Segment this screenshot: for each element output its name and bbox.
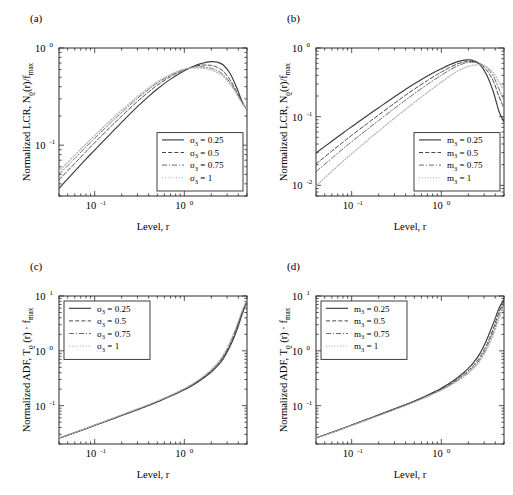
x-tick-label: 100 bbox=[175, 447, 194, 460]
y-tick-label: 10-1 bbox=[292, 110, 313, 123]
svg-text:-1: -1 bbox=[100, 447, 106, 455]
legend-label: m3 = 0.75 bbox=[354, 329, 390, 341]
svg-text:1: 1 bbox=[50, 289, 54, 297]
plot-c: (c)10-110010110010-1Level, rNormalized A… bbox=[0, 248, 256, 495]
svg-text:-1: -1 bbox=[357, 199, 363, 207]
svg-text:10: 10 bbox=[432, 448, 443, 459]
svg-text:10: 10 bbox=[35, 291, 46, 302]
svg-text:Normalized LCR, Nϱ(r)/fmax: Normalized LCR, Nϱ(r)/fmax bbox=[278, 62, 292, 181]
svg-text:0: 0 bbox=[50, 41, 54, 49]
legend-label: σ3 = 1 bbox=[190, 173, 212, 185]
panel-label: (a) bbox=[30, 12, 43, 25]
legend-label: m3 = 0.5 bbox=[447, 148, 479, 160]
svg-text:-1: -1 bbox=[50, 138, 56, 146]
svg-text:10: 10 bbox=[175, 448, 186, 459]
panel-c: (c)10-110010110010-1Level, rNormalized A… bbox=[0, 248, 256, 495]
svg-text:0: 0 bbox=[190, 199, 194, 207]
svg-text:0: 0 bbox=[447, 199, 451, 207]
svg-text:10: 10 bbox=[86, 200, 97, 211]
svg-text:10: 10 bbox=[35, 140, 46, 151]
legend-label: m3 = 0.75 bbox=[447, 160, 483, 172]
y-tick-label: 101 bbox=[35, 289, 54, 302]
legend-label: σ3 = 0.5 bbox=[97, 316, 126, 328]
svg-text:-1: -1 bbox=[100, 199, 106, 207]
svg-text:10: 10 bbox=[86, 448, 97, 459]
x-axis-title: Level, r bbox=[137, 221, 170, 232]
x-axis-title: Level, r bbox=[394, 221, 427, 232]
legend: σ3 = 0.25σ3 = 0.5σ3 = 0.75σ3 = 1 bbox=[157, 133, 243, 191]
legend-label: m3 = 1 bbox=[447, 173, 471, 185]
svg-text:-2: -2 bbox=[307, 178, 313, 186]
y-axis-title: Normalized LCR, Nϱ(r)/fmax bbox=[21, 62, 35, 181]
panel-a: (a)10-110010010-1Level, rNormalized LCR,… bbox=[0, 0, 256, 247]
x-tick-label: 100 bbox=[432, 199, 451, 212]
legend-label: σ3 = 0.5 bbox=[190, 148, 219, 160]
svg-text:10: 10 bbox=[292, 180, 303, 191]
svg-text:10: 10 bbox=[343, 448, 354, 459]
legend-label: m3 = 0.25 bbox=[447, 135, 483, 147]
legend-label: m3 = 1 bbox=[354, 341, 378, 353]
svg-text:-1: -1 bbox=[50, 399, 56, 407]
svg-text:10: 10 bbox=[292, 43, 303, 54]
x-tick-label: 100 bbox=[175, 199, 194, 212]
x-axis-title: Level, r bbox=[137, 469, 170, 480]
figure-container: (a)10-110010010-1Level, rNormalized LCR,… bbox=[0, 0, 513, 495]
panel-b: (b)10-110010010-110-2Level, rNormalized … bbox=[257, 0, 513, 247]
svg-text:10: 10 bbox=[175, 200, 186, 211]
y-tick-label: 10-2 bbox=[292, 178, 313, 191]
panel-label: (c) bbox=[30, 260, 43, 273]
y-axis-title: Normalized LCR, Nϱ(r)/fmax bbox=[278, 62, 292, 181]
legend-label: σ3 = 1 bbox=[97, 341, 119, 353]
y-tick-label: 10-1 bbox=[35, 399, 56, 412]
y-axis-title: Normalized ADF, Tϱ (r) · fmax bbox=[21, 307, 35, 432]
y-tick-label: 10-1 bbox=[35, 138, 56, 151]
y-tick-label: 100 bbox=[35, 344, 54, 357]
svg-text:Normalized LCR, Nϱ(r)/fmax: Normalized LCR, Nϱ(r)/fmax bbox=[21, 62, 35, 181]
x-tick-label: 10-1 bbox=[86, 199, 107, 212]
panel-label: (b) bbox=[287, 12, 300, 25]
svg-text:0: 0 bbox=[447, 447, 451, 455]
legend: m3 = 0.25m3 = 0.5m3 = 0.75m3 = 1 bbox=[321, 301, 407, 359]
svg-text:Normalized ADF, Tϱ (r) · fmax: Normalized ADF, Tϱ (r) · fmax bbox=[21, 307, 35, 432]
y-tick-label: 100 bbox=[35, 41, 54, 54]
svg-text:10: 10 bbox=[292, 401, 303, 412]
plot-d: (d)10-110010110010-1Level, rNormalized A… bbox=[257, 248, 513, 495]
svg-text:10: 10 bbox=[35, 43, 46, 54]
plot-a: (a)10-110010010-1Level, rNormalized LCR,… bbox=[0, 0, 256, 247]
svg-text:10: 10 bbox=[292, 291, 303, 302]
svg-text:-1: -1 bbox=[307, 110, 313, 118]
svg-text:10: 10 bbox=[432, 200, 443, 211]
x-axis-title: Level, r bbox=[394, 469, 427, 480]
legend-label: m3 = 0.25 bbox=[354, 304, 390, 316]
svg-text:0: 0 bbox=[307, 41, 311, 49]
y-tick-label: 10-1 bbox=[292, 399, 313, 412]
svg-text:10: 10 bbox=[35, 346, 46, 357]
x-tick-label: 10-1 bbox=[343, 199, 364, 212]
x-tick-label: 100 bbox=[432, 447, 451, 460]
legend: m3 = 0.25m3 = 0.5m3 = 0.75m3 = 1 bbox=[414, 133, 500, 191]
panel-d: (d)10-110010110010-1Level, rNormalized A… bbox=[257, 248, 513, 495]
svg-text:0: 0 bbox=[190, 447, 194, 455]
svg-text:-1: -1 bbox=[357, 447, 363, 455]
svg-text:0: 0 bbox=[50, 344, 54, 352]
svg-text:10: 10 bbox=[343, 200, 354, 211]
svg-text:10: 10 bbox=[292, 112, 303, 123]
y-tick-label: 101 bbox=[292, 289, 311, 302]
y-tick-label: 100 bbox=[292, 344, 311, 357]
legend: σ3 = 0.25σ3 = 0.5σ3 = 0.75σ3 = 1 bbox=[64, 301, 150, 359]
panel-label: (d) bbox=[287, 260, 300, 273]
svg-text:10: 10 bbox=[35, 401, 46, 412]
y-axis-title: Normalized ADF, Tϱ (r) · fmax bbox=[278, 307, 292, 432]
svg-text:-1: -1 bbox=[307, 399, 313, 407]
svg-text:10: 10 bbox=[292, 346, 303, 357]
legend-label: m3 = 0.5 bbox=[354, 316, 386, 328]
x-tick-label: 10-1 bbox=[343, 447, 364, 460]
x-tick-label: 10-1 bbox=[86, 447, 107, 460]
plot-b: (b)10-110010010-110-2Level, rNormalized … bbox=[257, 0, 513, 247]
svg-text:0: 0 bbox=[307, 344, 311, 352]
svg-text:Normalized ADF, Tϱ (r) · fmax: Normalized ADF, Tϱ (r) · fmax bbox=[278, 307, 292, 432]
svg-text:1: 1 bbox=[307, 289, 311, 297]
y-tick-label: 100 bbox=[292, 41, 311, 54]
